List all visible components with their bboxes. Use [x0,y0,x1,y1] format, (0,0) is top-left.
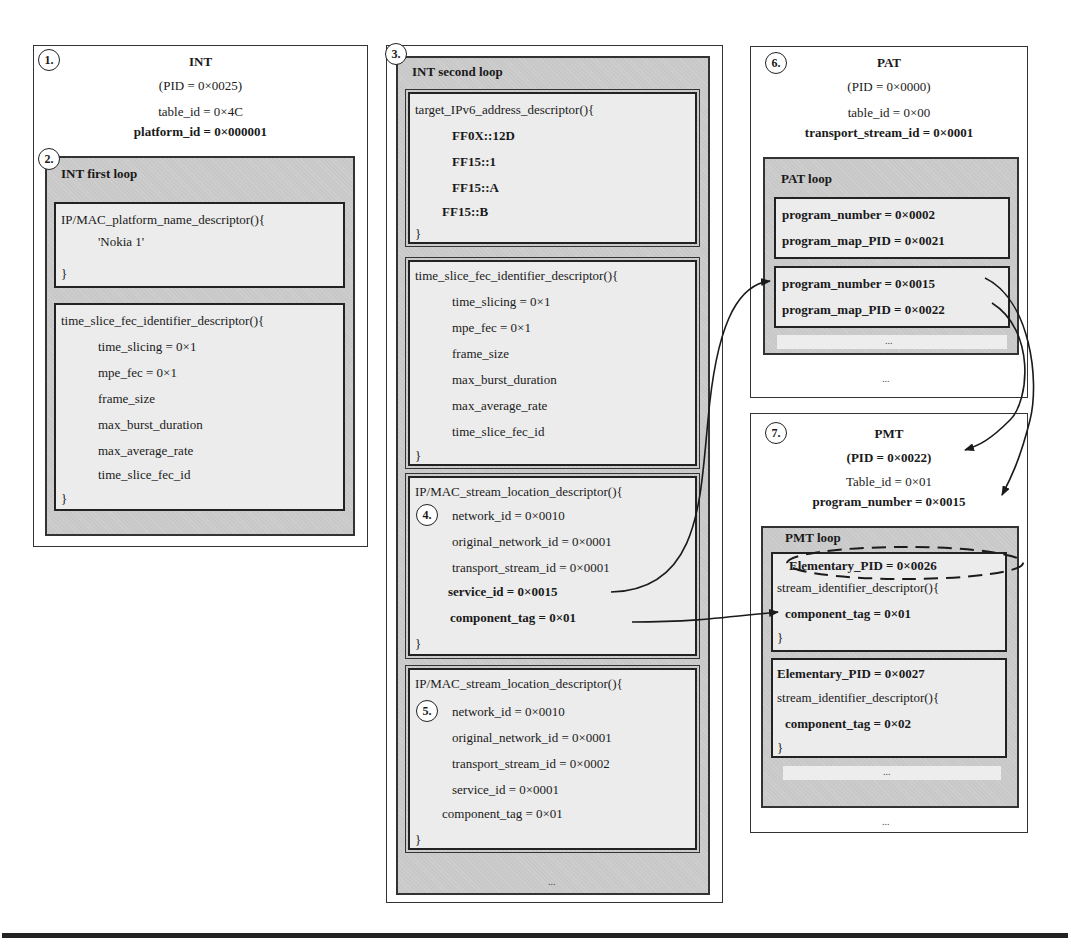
ipv6-address: FF15::A [452,180,499,196]
field: time_slice_fec_id [452,424,544,440]
program-number: program_number = 0×0002 [782,207,935,223]
pmt-pid: (PID = 0×0022) [751,450,1027,466]
descriptor-close: } [777,740,783,756]
int-second-loop-title: INT second loop [412,64,503,80]
field: original_network_id = 0×0001 [452,730,612,746]
descriptor-close: } [415,636,421,652]
step-badge-5: 5. [416,700,438,722]
int-title: INT [34,54,367,70]
descriptor-header: time_slice_fec_identifier_descriptor(){ [61,313,264,329]
component-tag-field: component_tag = 0×01 [450,610,576,626]
int-second-loop-panel: INT second loop target_IPv6_address_desc… [386,45,723,903]
ipv6-address: FF0X::12D [452,128,515,144]
elementary-pid: Elementary_PID = 0×0027 [777,666,925,682]
field: network_id = 0×0010 [452,508,565,524]
field: frame_size [452,346,509,362]
pat-entry-2: program_number = 0×0015 program_map_PID … [774,266,1010,328]
pmt-program-number: program_number = 0×0015 [751,494,1027,510]
pat-table-panel: 6. PAT (PID = 0×0000) table_id = 0×00 tr… [750,46,1028,398]
descriptor-header: time_slice_fec_identifier_descriptor(){ [415,268,618,284]
pmt-entry-2: Elementary_PID = 0×0027 stream_identifie… [771,658,1007,758]
stream-location-descriptor-1: IP/MAC_stream_location_descriptor(){ 4. … [408,476,697,656]
component-tag: component_tag = 0×02 [785,716,911,732]
component-tag: component_tag = 0×01 [785,606,911,622]
field: transport_stream_id = 0×0002 [452,756,610,772]
descriptor-close: } [777,630,783,646]
pat-more: ... [882,373,890,384]
pmt-loop: PMT loop Elementary_PID = 0×0026 stream_… [761,526,1019,808]
field: max_burst_duration [98,417,203,433]
pat-loop-more: ... [777,335,1007,349]
program-number: program_number = 0×0015 [782,276,935,292]
pmt-table-id: Table_id = 0×01 [751,474,1027,490]
field: service_id = 0×0001 [452,782,559,798]
ipv6-address: FF15::1 [452,154,496,170]
elementary-pid: Elementary_PID = 0×0026 [789,558,937,574]
stream-location-descriptor-2: IP/MAC_stream_location_descriptor(){ 5. … [408,668,697,850]
time-slice-descriptor: time_slice_fec_identifier_descriptor(){ … [408,260,697,466]
program-map-pid: program_map_PID = 0×0022 [782,302,945,318]
field: time_slicing = 0×1 [452,294,550,310]
descriptor-header: stream_identifier_descriptor(){ [777,580,939,596]
ellipsis: ... [883,766,891,777]
step-badge-3: 3. [385,43,407,65]
pat-entry-1: program_number = 0×0002 program_map_PID … [774,197,1010,259]
pat-pid: (PID = 0×0000) [751,79,1027,95]
field: network_id = 0×0010 [452,704,565,720]
int-platform-id: platform_id = 0×000001 [34,124,367,140]
pat-transport-stream-id: transport_stream_id = 0×0001 [751,125,1027,141]
descriptor-close: } [415,832,421,848]
platform-name-descriptor: IP/MAC_platform_name_descriptor(){ 'Noki… [54,202,345,288]
descriptor-close: } [61,266,67,282]
platform-name-value: 'Nokia 1' [98,234,144,250]
field: max_average_rate [452,398,547,414]
int-table-panel: 1. INT (PID = 0×0025) table_id = 0×4C pl… [33,45,368,547]
pmt-entry-1: Elementary_PID = 0×0026 stream_identifie… [771,552,1007,652]
pmt-title: PMT [751,426,1027,442]
pat-title: PAT [751,55,1027,71]
int-table-id: table_id = 0×4C [34,104,367,120]
ipv6-address-descriptor: target_IPv6_address_descriptor(){ FF0X::… [408,92,697,244]
field: mpe_fec = 0×1 [452,320,531,336]
service-id-field: service_id = 0×0015 [448,584,557,600]
descriptor-header: IP/MAC_stream_location_descriptor(){ [415,676,623,692]
ipv6-address: FF15::B [442,204,488,220]
step-badge-2: 2. [38,148,60,170]
pat-loop-title: PAT loop [781,171,832,187]
program-map-pid: program_map_PID = 0×0021 [782,233,945,249]
pmt-more: ... [882,816,890,827]
pmt-table-panel: 7. PMT (PID = 0×0022) Table_id = 0×01 pr… [750,413,1028,833]
int-pid: (PID = 0×0025) [34,78,367,94]
field: max_burst_duration [452,372,557,388]
field: time_slice_fec_id [98,467,190,483]
more-ellipsis: ... [548,876,556,887]
descriptor-close: } [415,448,421,464]
field: transport_stream_id = 0×0001 [452,560,610,576]
descriptor-header: IP/MAC_stream_location_descriptor(){ [415,484,623,500]
pat-loop: PAT loop program_number = 0×0002 program… [763,157,1019,355]
pmt-loop-more: ... [783,766,1001,780]
field: max_average_rate [98,443,193,459]
descriptor-header: target_IPv6_address_descriptor(){ [415,102,594,118]
descriptor-close: } [415,226,421,242]
int-first-loop-title: INT first loop [61,166,137,182]
field: original_network_id = 0×0001 [452,534,612,550]
time-slice-descriptor: time_slice_fec_identifier_descriptor(){ … [54,303,345,511]
step-badge-4: 4. [416,504,438,526]
descriptor-header: IP/MAC_platform_name_descriptor(){ [61,212,265,228]
bottom-rule [2,933,1068,938]
descriptor-close: } [61,491,67,507]
ellipsis: ... [885,335,893,346]
field: frame_size [98,391,155,407]
int-first-loop: INT first loop IP/MAC_platform_name_desc… [45,156,355,536]
descriptor-header: stream_identifier_descriptor(){ [777,690,939,706]
field: component_tag = 0×01 [442,806,563,822]
field: mpe_fec = 0×1 [98,365,177,381]
pmt-loop-title: PMT loop [785,530,841,546]
field: time_slicing = 0×1 [98,339,196,355]
int-second-loop: INT second loop target_IPv6_address_desc… [396,56,710,895]
pat-table-id: table_id = 0×00 [751,105,1027,121]
